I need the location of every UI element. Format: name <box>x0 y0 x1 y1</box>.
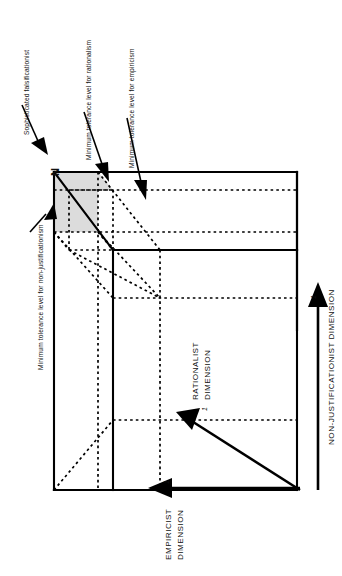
axis-label-empiricist-line2: DIMENSION <box>177 510 185 560</box>
tick-empiricist: 1 <box>163 480 170 484</box>
annotation-min-tolerance-non-justificationism: Minimum tolerance level for non-justific… <box>38 224 45 370</box>
axis-label-empiricist-line1: EMPIRICIST <box>165 509 173 560</box>
shaded-subcube <box>54 172 113 232</box>
axis-label-rationalist-line1: RATIONALIST <box>192 342 200 400</box>
figure-root: N Sophisticated falsificationist Minimum… <box>0 0 342 576</box>
tick-rationalist: 1 <box>201 407 208 411</box>
axis-arrowheads <box>148 282 328 498</box>
cube-diagram <box>0 0 342 576</box>
annotation-min-tolerance-rationalism: Minimum tolerance level for rationalism <box>86 40 93 160</box>
origin-label: N <box>50 168 61 176</box>
annotation-sophisticated-falsificationist: Sophisticated falsificationist <box>24 50 31 135</box>
tick-non-justificationist: 1 <box>310 295 317 299</box>
cube-solid-edges <box>54 172 297 490</box>
annotation-min-tolerance-empiricism: Minimum tolerance level for empiricism <box>129 48 136 168</box>
axis-label-non-justificationist: NON-JUSTIFICATIONIST DIMENSION <box>328 289 336 445</box>
axis-label-rationalist-line2: DIMENSION <box>204 350 212 400</box>
